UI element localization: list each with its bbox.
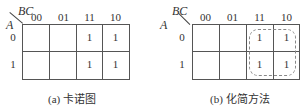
grouping-loop bbox=[249, 29, 296, 76]
column-header: 11 bbox=[76, 11, 103, 23]
karnaugh-map-a: BC A 00 01 11 10 0 1 1 1 1 1 (a) 卡诺图 bbox=[0, 0, 150, 110]
figure-caption: (a) 卡诺图 bbox=[48, 90, 96, 106]
column-header: 10 bbox=[102, 11, 129, 23]
cell-a1-bc10: 1 bbox=[102, 51, 129, 78]
grid-line bbox=[219, 24, 220, 80]
cell-a1-bc11: 1 bbox=[76, 51, 103, 78]
column-header: 00 bbox=[23, 11, 50, 23]
row-variable-label: A bbox=[160, 18, 167, 33]
karnaugh-map-b: BC A 00 01 11 10 0 1 1 1 1 1 (b) 化简方法 bbox=[155, 0, 305, 110]
column-header: 11 bbox=[246, 11, 273, 23]
column-header: 10 bbox=[273, 11, 300, 23]
grid-line bbox=[49, 24, 50, 80]
figure-caption: (b) 化简方法 bbox=[210, 90, 270, 106]
cell-a0-bc11: 1 bbox=[76, 24, 103, 51]
cell-a0-bc10: 1 bbox=[102, 24, 129, 51]
column-header: 01 bbox=[219, 11, 246, 23]
column-header: 00 bbox=[192, 11, 219, 23]
row-header: 0 bbox=[177, 31, 187, 43]
row-header: 1 bbox=[177, 58, 187, 70]
column-variable-label: BC bbox=[172, 4, 187, 19]
column-header: 01 bbox=[50, 11, 77, 23]
row-header: 0 bbox=[8, 31, 18, 43]
row-header: 1 bbox=[8, 58, 18, 70]
